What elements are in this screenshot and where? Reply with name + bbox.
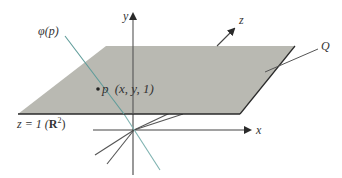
phi-line-lower (124, 114, 160, 170)
line-bundle (95, 113, 183, 164)
z-axis-label: z (238, 13, 244, 27)
projective-plane-diagram: y z x φ(p) Q p (x, y, 1) z = 1 (R2) (0, 0, 342, 178)
point-p (96, 87, 100, 91)
q-label: Q (321, 39, 330, 53)
y-axis-label: y (122, 9, 129, 23)
plane-label: z = 1 (R2) (16, 116, 65, 131)
z-axis (217, 29, 234, 46)
point-p-label: p (x, y, 1) (101, 81, 154, 96)
x-axis-label: x (255, 123, 262, 137)
phi-label: φ(p) (38, 24, 59, 38)
plane-z1 (18, 46, 295, 114)
